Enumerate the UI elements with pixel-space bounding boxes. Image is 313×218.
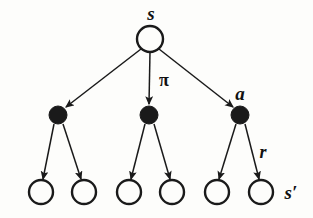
node-group: [29, 26, 273, 204]
edge-action-2-to-leaf-3: [131, 124, 145, 179]
root-state-node: [137, 26, 163, 52]
policy-label: π: [159, 71, 169, 89]
action-node-2: [140, 106, 158, 124]
leaf-state-node-4: [160, 180, 184, 204]
edge-root-to-action-2: [149, 52, 150, 104]
action-label: a: [235, 84, 245, 103]
edge-root-to-action-1: [66, 49, 141, 107]
action-node-1: [49, 106, 67, 124]
backup-diagram-figure: s π a r s′: [0, 0, 313, 218]
reward-label: r: [259, 143, 266, 161]
leaf-state-node-5: [205, 180, 229, 204]
edge-action-3-to-leaf-6: [245, 124, 259, 179]
edge-action-1-to-leaf-1: [43, 124, 54, 179]
action-node-3: [231, 106, 249, 124]
leaf-state-node-1: [29, 180, 53, 204]
next-state-label: s′: [284, 183, 297, 202]
leaf-state-node-2: [72, 180, 96, 204]
backup-diagram-canvas: [0, 0, 313, 218]
leaf-state-node-6: [249, 180, 273, 204]
edge-action-3-to-leaf-5: [219, 124, 236, 179]
root-state-label: s: [147, 4, 155, 23]
edge-action-1-to-leaf-2: [63, 124, 81, 179]
edge-root-to-action-3: [159, 49, 233, 107]
leaf-state-node-3: [117, 180, 141, 204]
edge-action-2-to-leaf-4: [154, 124, 170, 179]
